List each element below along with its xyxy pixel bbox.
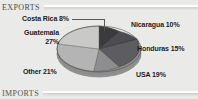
slice-label-honduras: Honduras 15% [137,45,184,53]
exports-imports-panel: EXPORTS [0,0,198,99]
slice-label-usa: USA 19% [136,71,166,79]
pie-svg [56,18,142,80]
header-rule [43,91,198,96]
slice-label-costa-rica: Costa Rica 8% [22,15,69,23]
slice-label-guatemala-name: Guatemala [24,29,59,36]
leader-line-horizontal [72,19,105,20]
slice-label-guatemala-pct: 27% [45,38,59,45]
slice-label-nicaragua: Nicaragua 10% [131,21,180,29]
exports-pie-chart: Costa Rica 8% Nicaragua 10% Honduras 15%… [0,12,198,87]
leader-line-vertical [104,19,105,31]
header-rule [44,5,198,10]
pie-graphic [56,18,142,80]
slice-label-guatemala: Guatemala 27% [12,28,59,46]
section-header-imports: IMPORTS [0,87,198,99]
slice-label-other: Other 21% [23,68,57,76]
section-title-exports: EXPORTS [0,3,40,12]
section-title-imports: IMPORTS [0,89,39,98]
